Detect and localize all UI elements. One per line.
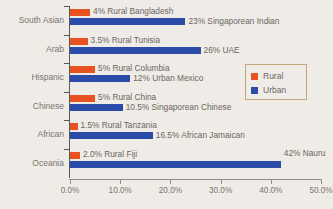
x-axis-tick bbox=[170, 179, 171, 184]
category-group: Oceania2.0% Rural Fiji42% Nauru bbox=[0, 149, 329, 178]
bar-value-label: 4% Rural Bangladesh bbox=[93, 7, 173, 16]
x-axis-tick-label: 20.0% bbox=[159, 186, 182, 195]
x-axis-tick-label: 0.0% bbox=[61, 186, 80, 195]
legend-item-rural[interactable]: Rural bbox=[251, 69, 301, 83]
x-axis-tick bbox=[321, 179, 322, 184]
x-axis-tick-label: 10.0% bbox=[109, 186, 132, 195]
bar-urban[interactable] bbox=[70, 132, 153, 139]
category-label: Hispanic bbox=[0, 72, 64, 82]
bar-rural[interactable] bbox=[70, 9, 90, 16]
x-axis-tick-label: 50.0% bbox=[309, 186, 332, 195]
chart-legend: Rural Urban bbox=[245, 64, 307, 100]
y-axis-tick bbox=[64, 120, 70, 121]
y-axis-tick bbox=[64, 92, 70, 93]
bar-rural[interactable] bbox=[70, 123, 78, 130]
bar-rural[interactable] bbox=[70, 66, 95, 73]
bar-value-label: 5% Rural China bbox=[98, 93, 156, 102]
category-group: African1.5% Rural Tanzania16.5% African … bbox=[0, 120, 329, 149]
bar-value-label: 3.5% Rural Tunisia bbox=[91, 36, 161, 45]
category-label: South Asian bbox=[0, 15, 64, 25]
bar-urban[interactable] bbox=[70, 18, 185, 25]
bar-rural[interactable] bbox=[70, 95, 95, 102]
bar-value-label: 23% Singaporean Indian bbox=[188, 17, 279, 26]
y-axis-tick bbox=[64, 35, 70, 36]
x-axis-line bbox=[69, 179, 321, 180]
bar-value-label: 26% UAE bbox=[204, 46, 240, 55]
legend-swatch-urban-icon bbox=[251, 87, 258, 94]
legend-swatch-rural-icon bbox=[251, 73, 258, 80]
bar-value-label: 42% Nauru bbox=[284, 149, 326, 159]
bar-urban[interactable] bbox=[70, 47, 201, 54]
legend-label-rural: Rural bbox=[263, 71, 283, 81]
legend-item-urban[interactable]: Urban bbox=[251, 83, 301, 97]
bar-urban[interactable] bbox=[70, 161, 281, 168]
bar-value-label: 12% Urban Mexico bbox=[133, 74, 203, 83]
bar-value-label: 5% Rural Columbia bbox=[98, 64, 169, 73]
bar-rural[interactable] bbox=[70, 38, 88, 45]
y-axis-tick bbox=[64, 6, 70, 7]
category-label: Chinese bbox=[0, 101, 64, 111]
bar-value-label: 16.5% African Jamaican bbox=[156, 131, 245, 140]
category-label: Oceania bbox=[0, 158, 64, 168]
bar-urban[interactable] bbox=[70, 104, 123, 111]
x-axis-tick bbox=[70, 179, 71, 184]
category-label: Arab bbox=[0, 44, 64, 54]
category-label: African bbox=[0, 129, 64, 139]
y-axis-tick bbox=[64, 63, 70, 64]
category-group: Arab3.5% Rural Tunisia26% UAE bbox=[0, 35, 329, 64]
bar-rural[interactable] bbox=[70, 152, 80, 159]
bar-value-label: 2.0% Rural Fiji bbox=[83, 150, 137, 159]
x-axis-tick bbox=[120, 179, 121, 184]
bar-urban[interactable] bbox=[70, 75, 130, 82]
y-axis-tick bbox=[64, 149, 70, 150]
x-axis-tick-label: 30.0% bbox=[209, 186, 232, 195]
x-axis-tick bbox=[221, 179, 222, 184]
x-axis-tick-label: 40.0% bbox=[259, 186, 282, 195]
x-axis-tick bbox=[271, 179, 272, 184]
bar-value-label: 10.5% Singaporean Chinese bbox=[126, 103, 232, 112]
legend-label-urban: Urban bbox=[263, 85, 286, 95]
bar-value-label: 1.5% Rural Tanzania bbox=[81, 121, 157, 130]
category-group: South Asian4% Rural Bangladesh23% Singap… bbox=[0, 6, 329, 35]
